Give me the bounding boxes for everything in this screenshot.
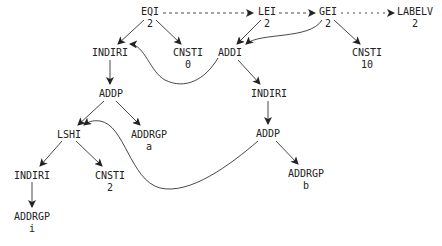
- edge-addp-addrgpa: [116, 101, 140, 125]
- node-op: ADDRGP: [14, 211, 50, 223]
- node-sub: i: [14, 223, 50, 235]
- node-eqi: EQI2: [141, 6, 159, 30]
- node-sub: 2: [258, 18, 276, 30]
- node-op: LSHI: [57, 129, 81, 141]
- node-sub: 2: [141, 18, 159, 30]
- node-addrgp-a: ADDRGPa: [131, 129, 167, 153]
- node-cnsti-10: CNSTI10: [352, 47, 382, 71]
- node-op: CNSTI: [173, 47, 203, 59]
- node-sub: 0: [173, 59, 203, 71]
- node-op: LEI: [258, 6, 276, 18]
- node-op: INDIRI: [14, 170, 50, 182]
- node-indiri: INDIRI: [92, 47, 128, 59]
- node-addrgp-b: ADDRGPb: [288, 168, 324, 192]
- node-op: INDIRI: [251, 88, 287, 100]
- node-cnsti-0: CNSTI0: [173, 47, 203, 71]
- node-labelv: LABELV2: [397, 6, 433, 30]
- node-addp-right: ADDP: [256, 128, 280, 140]
- edges-layer: [0, 0, 442, 246]
- node-op: INDIRI: [92, 47, 128, 59]
- node-addp: ADDP: [99, 88, 123, 100]
- node-sub: 10: [352, 59, 382, 71]
- node-sub: 2: [95, 182, 125, 194]
- node-op: LABELV: [397, 6, 433, 18]
- node-op: ADDRGP: [131, 129, 167, 141]
- edge-addp2-addrgpb: [276, 141, 298, 164]
- edge-eqi-cnsti0: [156, 20, 181, 44]
- node-op: CNSTI: [95, 170, 125, 182]
- node-op: GEI: [319, 6, 337, 18]
- node-lshi: LSHI: [57, 129, 81, 141]
- edge-gei-cnsti10: [334, 20, 360, 44]
- node-indiri-bottom: INDIRI: [14, 170, 50, 182]
- node-addi: ADDI: [218, 47, 242, 59]
- edge-lshi-indiri3: [40, 141, 62, 166]
- node-indiri-right: INDIRI: [251, 88, 287, 100]
- node-op: ADDP: [99, 88, 123, 100]
- node-sub: a: [131, 141, 167, 153]
- node-addrgp-i: ADDRGPi: [14, 211, 50, 235]
- node-op: CNSTI: [352, 47, 382, 59]
- node-sub: b: [288, 180, 324, 192]
- node-cnsti-2: CNSTI2: [95, 170, 125, 194]
- node-op: ADDRGP: [288, 168, 324, 180]
- node-op: EQI: [141, 6, 159, 18]
- node-op: ADDP: [256, 128, 280, 140]
- dag-diagram: EQI2 LEI2 GEI2 LABELV2 INDIRI CNSTI0 ADD…: [0, 0, 442, 246]
- edge-addi-indiri2: [238, 60, 260, 84]
- node-sub: 2: [319, 18, 337, 30]
- edge-lshi-cnsti2: [76, 141, 102, 166]
- node-sub: 2: [397, 18, 433, 30]
- node-gei: GEI2: [319, 6, 337, 30]
- node-lei: LEI2: [258, 6, 276, 30]
- node-op: ADDI: [218, 47, 242, 59]
